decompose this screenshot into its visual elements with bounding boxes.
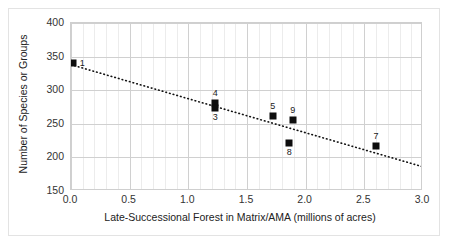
- data-point-label: 5: [270, 102, 275, 111]
- x-axis-tick-label: 0.0: [63, 193, 78, 205]
- minor-vertical-gridline: [141, 23, 142, 189]
- x-axis-tick-label: 3.0: [415, 193, 430, 205]
- y-axis-tick-label: 400: [46, 16, 64, 28]
- minor-vertical-gridline: [177, 23, 178, 189]
- minor-vertical-gridline: [411, 23, 412, 189]
- minor-vertical-gridline: [153, 23, 154, 189]
- horizontal-gridline: [71, 157, 421, 158]
- x-axis-title: Late-Successional Forest in Matrix/AMA (…: [40, 211, 440, 223]
- data-point-label: 1: [80, 59, 85, 68]
- y-axis-title: Number of Species or Groups: [17, 19, 29, 189]
- minor-vertical-gridline: [83, 23, 84, 189]
- y-axis-tick-labels: 400350300250200150: [30, 22, 64, 190]
- minor-vertical-gridline: [165, 23, 166, 189]
- data-point-label: 8: [287, 148, 292, 157]
- data-point-label: 3: [213, 113, 218, 122]
- minor-vertical-gridline: [224, 23, 225, 189]
- x-axis-tick-label: 1.5: [239, 193, 254, 205]
- data-point-marker: [373, 142, 380, 149]
- data-point-marker: [212, 104, 219, 111]
- minor-vertical-gridline: [259, 23, 260, 189]
- x-axis-tick-label: 2.5: [356, 193, 371, 205]
- vertical-gridline: [364, 23, 365, 189]
- x-axis-tick-labels: 0.00.51.01.52.02.53.0: [70, 193, 422, 209]
- horizontal-gridline: [71, 90, 421, 91]
- figure: 400350300250200150 1435987 0.00.51.01.52…: [0, 0, 450, 249]
- data-point-label: 9: [290, 106, 295, 115]
- minor-vertical-gridline: [106, 23, 107, 189]
- horizontal-gridline: [71, 23, 421, 24]
- vertical-gridline: [71, 23, 72, 189]
- data-point-marker: [286, 139, 293, 146]
- minor-vertical-gridline: [200, 23, 201, 189]
- minor-vertical-gridline: [329, 23, 330, 189]
- y-axis-tick-label: 200: [46, 150, 64, 162]
- minor-vertical-gridline: [388, 23, 389, 189]
- vertical-gridline: [188, 23, 189, 189]
- data-point-label: 4: [213, 89, 218, 98]
- x-axis-tick-label: 2.0: [297, 193, 312, 205]
- y-axis-tick-label: 150: [46, 184, 64, 196]
- minor-vertical-gridline: [317, 23, 318, 189]
- vertical-gridline: [130, 23, 131, 189]
- horizontal-gridline: [71, 124, 421, 125]
- data-point-label: 7: [374, 132, 379, 141]
- x-axis-tick-label: 1.0: [180, 193, 195, 205]
- data-point-marker: [289, 117, 296, 124]
- data-point-marker: [269, 112, 276, 119]
- y-axis-tick-label: 250: [46, 117, 64, 129]
- minor-vertical-gridline: [282, 23, 283, 189]
- minor-vertical-gridline: [341, 23, 342, 189]
- horizontal-gridline: [71, 57, 421, 58]
- y-axis-tick-label: 300: [46, 83, 64, 95]
- vertical-gridline: [306, 23, 307, 189]
- plot-area: 1435987: [70, 22, 422, 190]
- x-axis-tick-label: 0.5: [121, 193, 136, 205]
- minor-vertical-gridline: [118, 23, 119, 189]
- data-point-marker: [70, 59, 77, 66]
- vertical-gridline: [247, 23, 248, 189]
- minor-vertical-gridline: [94, 23, 95, 189]
- minor-vertical-gridline: [353, 23, 354, 189]
- minor-vertical-gridline: [235, 23, 236, 189]
- minor-vertical-gridline: [400, 23, 401, 189]
- minor-vertical-gridline: [376, 23, 377, 189]
- y-axis-tick-label: 350: [46, 50, 64, 62]
